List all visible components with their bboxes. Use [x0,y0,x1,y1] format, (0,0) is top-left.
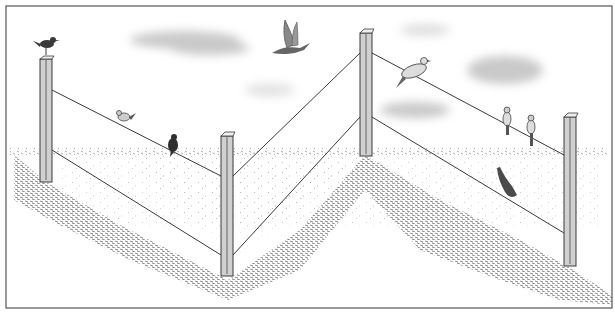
fence-post-3 [360,29,374,156]
fence-post-2 [221,132,235,276]
fence-post-1 [40,56,54,182]
illustration-svg [0,0,615,314]
fence-post-4 [564,113,578,266]
fence-illustration: Birds perched on a wire fence in a field [0,0,615,314]
